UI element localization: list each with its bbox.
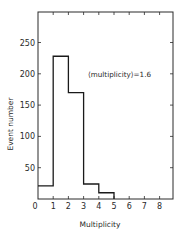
mean-multiplicity-annotation: ⟨multiplicity⟩=1.6 <box>88 70 151 79</box>
y-tick-label: 150 <box>20 101 35 110</box>
x-tick-label: 8 <box>157 202 162 211</box>
y-tick-label: 100 <box>20 132 35 141</box>
x-tick-label: 5 <box>111 202 116 211</box>
x-tick-label: 6 <box>127 202 132 211</box>
x-tick-label: 2 <box>66 202 71 211</box>
x-tick-label: 7 <box>142 202 147 211</box>
histogram-chart: 012345678 50100150200250 ⟨multiplicity⟩=… <box>0 0 189 238</box>
x-axis-label: Multiplicity <box>80 220 121 229</box>
x-tick-labels: 012345678 <box>32 202 162 211</box>
y-tick-labels: 50100150200250 <box>20 39 35 173</box>
x-tick-label: 3 <box>81 202 86 211</box>
y-tick-label: 250 <box>20 39 35 48</box>
plot-border <box>38 12 173 199</box>
x-tick-label: 1 <box>51 202 56 211</box>
plot-frame <box>38 12 173 199</box>
axis-ticks <box>38 12 173 199</box>
x-tick-label: 4 <box>96 202 101 211</box>
y-tick-label: 50 <box>25 164 35 173</box>
x-tick-label: 0 <box>32 202 37 211</box>
y-tick-label: 200 <box>20 70 35 79</box>
y-axis-label: Event number <box>6 97 15 151</box>
